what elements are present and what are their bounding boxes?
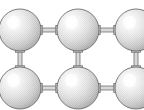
sphere-r2-c2 — [57, 67, 99, 109]
sphere-r1-c2 — [57, 9, 99, 51]
sphere-r2-c1 — [0, 67, 41, 109]
lattice-canvas — [0, 0, 144, 110]
sphere-r1-c1 — [0, 9, 41, 51]
sphere-lattice-figure — [0, 0, 144, 110]
